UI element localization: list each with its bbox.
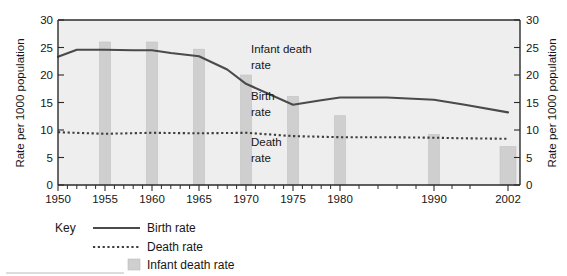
y-right-tick-0: 0 [526, 179, 532, 191]
x-tick-1975: 1975 [280, 193, 306, 205]
annotation-birth-rate-line2: rate [251, 106, 271, 118]
annotation-infant-death-rate-line2: rate [251, 59, 271, 71]
bar-2002 [500, 147, 516, 186]
y-right-tick-10: 10 [526, 124, 539, 136]
page-artifact-line [6, 272, 124, 274]
bar-1970 [241, 75, 252, 185]
legend-title: Key [55, 221, 76, 235]
x-tick-1955: 1955 [92, 193, 118, 205]
legend-marker-infant-death-rate [128, 259, 140, 270]
legend-label-infant-death-rate: Infant death rate [147, 258, 235, 272]
bar-1975 [288, 96, 299, 185]
y-right-tick-20: 20 [526, 69, 539, 81]
x-tick-2002: 2002 [495, 193, 521, 205]
annotation-death-rate-line2: rate [251, 152, 271, 164]
annotation-death-rate-line1: Death [251, 136, 282, 148]
y-left-tick-5: 5 [47, 152, 53, 164]
legend-label-birth-rate: Birth rate [147, 221, 196, 235]
y-left-tick-20: 20 [40, 69, 53, 81]
annotation-infant-death-rate-line1: Infant death [251, 43, 312, 55]
bar-1955 [100, 42, 111, 185]
y-left-tick-0: 0 [47, 179, 53, 191]
x-tick-1960: 1960 [139, 193, 165, 205]
y-left-tick-30: 30 [40, 14, 53, 26]
legend-label-death-rate: Death rate [147, 240, 203, 254]
chart-figure: 0 5 10 15 20 25 30 0 5 10 15 20 25 30 [0, 0, 567, 276]
birth-death-infant-rate-chart: 0 5 10 15 20 25 30 0 5 10 15 20 25 30 [0, 0, 567, 276]
bar-1965 [194, 49, 205, 185]
y-right-tick-15: 15 [526, 97, 539, 109]
bar-1960 [147, 42, 158, 185]
annotation-birth-rate-line1: Birth [251, 90, 275, 102]
y-left-tick-15: 15 [40, 97, 53, 109]
y-axis-right-title: Rate per 1000 population [546, 38, 558, 167]
bar-1990 [429, 134, 440, 185]
x-tick-1990: 1990 [421, 193, 447, 205]
y-axis-left-title: Rate per 1000 population [14, 38, 26, 167]
y-right-tick-30: 30 [526, 14, 539, 26]
y-left-tick-25: 25 [40, 42, 53, 54]
x-tick-1950: 1950 [45, 193, 71, 205]
x-tick-1965: 1965 [186, 193, 212, 205]
bar-1980 [335, 116, 346, 185]
y-right-tick-25: 25 [526, 42, 539, 54]
x-tick-1970: 1970 [233, 193, 259, 205]
y-left-tick-10: 10 [40, 124, 53, 136]
x-tick-1980: 1980 [327, 193, 353, 205]
y-right-tick-5: 5 [526, 152, 532, 164]
